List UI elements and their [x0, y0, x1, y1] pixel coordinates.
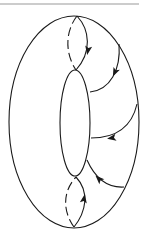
top-meridian-front-curve [76, 16, 87, 70]
flow-line-2-curve [91, 104, 137, 138]
flow-line-1-curve [90, 44, 119, 92]
arrowhead-icon [80, 193, 88, 203]
torus-diagram [0, 0, 147, 238]
bottom-meridian-front-curve [74, 177, 85, 227]
top-meridian-back-curve [68, 16, 77, 70]
flow-line-3-curve [87, 160, 124, 187]
bottom-meridian-back-curve [66, 177, 76, 227]
flow-curves [66, 16, 137, 227]
arrowhead-icon [110, 67, 120, 78]
arrowhead-icon [93, 173, 104, 184]
inner-hole-ellipse [60, 70, 90, 176]
